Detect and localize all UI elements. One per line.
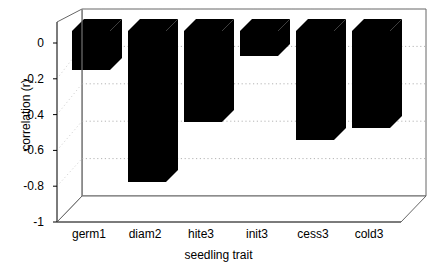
bar-diam2 xyxy=(128,19,178,182)
xtick-label-germ1: germ1 xyxy=(61,228,117,240)
xtick-label-diam2: diam2 xyxy=(117,228,173,240)
bar-germ1 xyxy=(72,19,122,70)
bar-hite3 xyxy=(184,19,234,122)
bar-cold3-front xyxy=(352,31,390,128)
ytick-label-5: -1 xyxy=(10,216,44,228)
xtick-label-cold3: cold3 xyxy=(341,228,397,240)
bar-diam2-front xyxy=(128,31,166,182)
bar-hite3-front xyxy=(184,31,222,122)
bar-hite3-side xyxy=(222,19,234,122)
y-axis-title: correlation (r) xyxy=(19,45,33,185)
xtick-label-init3: init3 xyxy=(229,228,285,240)
bar-cold3 xyxy=(352,19,402,128)
bar-cess3 xyxy=(296,19,346,140)
bar-chart-figure: 0 -0.2 -0.4 -0.6 -0.8 -1 germ1 diam2 hit… xyxy=(0,0,437,270)
x-axis-title: seedling trait xyxy=(0,248,437,262)
y-tick-marks xyxy=(53,43,57,222)
xtick-label-cess3: cess3 xyxy=(285,228,341,240)
bar-diam2-side xyxy=(166,19,178,182)
xtick-label-hite3: hite3 xyxy=(173,228,229,240)
bar-cess3-side xyxy=(334,19,346,140)
bar-germ1-front xyxy=(72,31,110,70)
bar-cess3-front xyxy=(296,31,334,140)
bar-cold3-side xyxy=(390,19,402,128)
floor-plane xyxy=(57,196,426,222)
bar-init3-front xyxy=(240,31,278,56)
bar-init3 xyxy=(240,19,290,56)
